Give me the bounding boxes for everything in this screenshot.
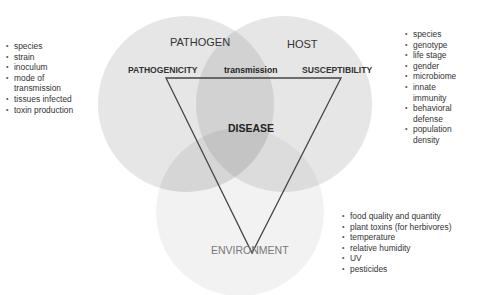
list-item: innate immunity xyxy=(405,82,449,103)
list-item: population density xyxy=(405,124,459,145)
list-item: genotype xyxy=(405,40,471,51)
list-item: species xyxy=(6,41,126,52)
list-item: behavioral defense xyxy=(405,103,459,124)
list-item: pesticides xyxy=(342,264,482,275)
host-label: HOST xyxy=(287,38,318,50)
pathogenicity-label: PATHOGENICITY xyxy=(128,65,197,75)
list-item: gender xyxy=(405,61,471,72)
susceptibility-label: SUSCEPTIBILITY xyxy=(302,65,372,75)
list-item: food quality and quantity xyxy=(342,211,482,222)
host-factor-list: species genotype life stage gender micro… xyxy=(405,29,471,146)
list-item: UV xyxy=(342,253,482,264)
list-item: microbiome xyxy=(405,71,471,82)
list-item: mode of transmission xyxy=(6,73,64,94)
disease-label: DISEASE xyxy=(228,122,274,134)
list-item: relative humidity xyxy=(342,243,482,254)
list-item: species xyxy=(405,29,471,40)
pathogen-factor-list: species strain inoculum mode of transmis… xyxy=(6,41,126,115)
list-item: toxin production xyxy=(6,105,126,116)
list-item: strain xyxy=(6,52,126,63)
environment-label: ENVIRONMENT xyxy=(211,244,289,256)
transmission-label: transmission xyxy=(224,65,278,75)
environment-factor-list: food quality and quantity plant toxins (… xyxy=(342,211,482,275)
list-item: tissues infected xyxy=(6,94,126,105)
list-item: temperature xyxy=(342,232,482,243)
pathogen-label: PATHOGEN xyxy=(170,36,230,48)
list-item: plant toxins (for herbivores) xyxy=(342,222,482,233)
list-item: life stage xyxy=(405,50,471,61)
list-item: inoculum xyxy=(6,62,126,73)
